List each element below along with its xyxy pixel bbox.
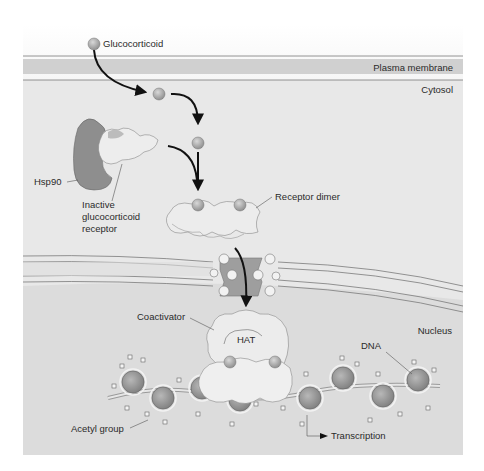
coactivator-hat-complex — [199, 310, 293, 404]
label-nucleus: Nucleus — [418, 325, 453, 336]
glucocorticoid-ligand-icon — [88, 38, 100, 50]
label-cytosol: Cytosol — [421, 84, 453, 95]
label-acetyl-group: Acetyl group — [71, 423, 124, 434]
glucocorticoid-ligand-icon — [192, 137, 204, 149]
label-inactive-receptor-2: glucocorticoid — [82, 211, 140, 222]
label-dna: DNA — [361, 340, 382, 351]
label-plasma-membrane: Plasma membrane — [373, 62, 453, 73]
label-inactive-receptor-3: receptor — [82, 223, 117, 234]
label-receptor-dimer: Receptor dimer — [275, 191, 340, 202]
label-transcription: Transcription — [331, 430, 386, 441]
glucocorticoid-ligand-icon — [153, 88, 165, 100]
glucocorticoid-signaling-diagram: Glucocorticoid Plasma membrane Cytosol H… — [0, 0, 484, 471]
label-inactive-receptor-1: Inactive — [82, 199, 115, 210]
label-hsp90: Hsp90 — [34, 176, 61, 187]
label-coactivator: Coactivator — [137, 311, 185, 322]
label-glucocorticoid: Glucocorticoid — [103, 38, 163, 49]
label-hat: HAT — [237, 334, 255, 345]
